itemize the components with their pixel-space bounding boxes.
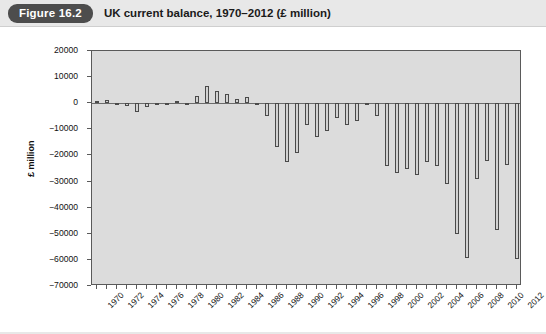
bar-1980	[195, 96, 200, 103]
x-tick-label: 1998	[385, 290, 405, 310]
y-axis-title: £ million	[26, 140, 36, 177]
bar-1976	[155, 103, 160, 105]
x-tick-mark	[196, 285, 197, 289]
x-tick-mark	[96, 285, 97, 289]
bar-1989	[285, 103, 290, 161]
y-tick-mark	[87, 181, 91, 182]
x-tick-mark	[286, 285, 287, 289]
bar-1979	[185, 103, 190, 105]
x-tick-mark	[216, 285, 217, 289]
y-tick-label: 0	[73, 97, 78, 107]
bar-2001	[405, 103, 410, 169]
x-tick-mark	[426, 285, 427, 289]
x-tick-label: 1990	[305, 290, 325, 310]
y-tick-mark	[87, 76, 91, 77]
bar-1991	[305, 103, 310, 124]
x-tick-mark	[106, 285, 107, 289]
figure-number-badge: Figure 16.2	[8, 4, 93, 23]
bar-1971	[105, 100, 110, 103]
x-tick-mark	[466, 285, 467, 289]
x-tick-mark	[336, 285, 337, 289]
x-tick-label: 1980	[205, 290, 225, 310]
x-tick-mark	[126, 285, 127, 289]
y-tick-mark	[87, 285, 91, 286]
y-tick-label: −20000	[49, 149, 78, 159]
bar-1972	[115, 103, 120, 105]
bar-1993	[325, 103, 330, 131]
x-tick-label: 2012	[525, 290, 545, 310]
x-tick-label: 1994	[345, 290, 365, 310]
bar-1987	[265, 103, 270, 116]
bar-1992	[315, 103, 320, 137]
bar-1982	[215, 91, 220, 103]
x-tick-label: 1988	[285, 290, 305, 310]
x-tick-mark	[306, 285, 307, 289]
x-tick-mark	[226, 285, 227, 289]
x-tick-mark	[396, 285, 397, 289]
x-tick-mark	[386, 285, 387, 289]
bar-1978	[175, 101, 180, 104]
y-tick-label: −60000	[49, 254, 78, 264]
bar-1970	[95, 101, 100, 103]
bar-2012	[515, 103, 520, 258]
bar-2007	[465, 103, 470, 258]
x-tick-mark	[206, 285, 207, 289]
x-tick-mark	[366, 285, 367, 289]
y-tick-mark	[87, 233, 91, 234]
figure-title: UK current balance, 1970–2012 (£ million…	[104, 7, 331, 19]
x-tick-label: 1974	[145, 290, 165, 310]
x-tick-mark	[136, 285, 137, 289]
y-tick-mark	[87, 102, 91, 103]
bar-2005	[445, 103, 450, 184]
x-tick-mark	[416, 285, 417, 289]
x-tick-mark	[406, 285, 407, 289]
bar-1977	[165, 103, 170, 105]
bar-1983	[225, 94, 230, 103]
bar-2003	[425, 103, 430, 162]
x-tick-label: 1978	[185, 290, 205, 310]
x-tick-mark	[116, 285, 117, 289]
x-tick-mark	[326, 285, 327, 289]
x-tick-mark	[236, 285, 237, 289]
bar-2008	[475, 103, 480, 179]
x-tick-label: 2002	[425, 290, 445, 310]
bar-2009	[485, 103, 490, 160]
x-tick-label: 1970	[105, 290, 125, 310]
x-tick-mark	[186, 285, 187, 289]
x-tick-label: 1986	[265, 290, 285, 310]
bar-1999	[385, 103, 390, 166]
x-tick-label: 2008	[485, 290, 505, 310]
plot-area	[91, 50, 521, 285]
bar-1975	[145, 103, 150, 107]
bar-1981	[205, 86, 210, 103]
x-tick-mark	[346, 285, 347, 289]
y-tick-mark	[87, 154, 91, 155]
y-tick-mark	[87, 207, 91, 208]
y-tick-label: −70000	[49, 280, 78, 290]
bar-1994	[335, 103, 340, 118]
x-tick-mark	[256, 285, 257, 289]
x-tick-mark	[486, 285, 487, 289]
y-tick-label: 20000	[54, 45, 78, 55]
y-axis-labels: 20000100000−10000−20000−30000−40000−5000…	[0, 27, 86, 334]
x-tick-mark	[376, 285, 377, 289]
x-tick-mark	[316, 285, 317, 289]
x-tick-label: 2010	[505, 290, 525, 310]
bar-1998	[375, 103, 380, 116]
bar-1973	[125, 103, 130, 106]
bar-2006	[455, 103, 460, 234]
x-tick-mark	[436, 285, 437, 289]
y-tick-mark	[87, 128, 91, 129]
x-tick-mark	[506, 285, 507, 289]
figure-page: Figure 16.2 UK current balance, 1970–201…	[0, 0, 546, 334]
x-tick-mark	[446, 285, 447, 289]
bar-1988	[275, 103, 280, 146]
bar-2000	[395, 103, 400, 173]
x-tick-label: 1984	[245, 290, 265, 310]
x-tick-mark	[246, 285, 247, 289]
x-tick-mark	[476, 285, 477, 289]
x-tick-label: 1992	[325, 290, 345, 310]
bar-series	[92, 51, 520, 284]
bar-1986	[255, 103, 260, 105]
y-tick-label: −40000	[49, 202, 78, 212]
